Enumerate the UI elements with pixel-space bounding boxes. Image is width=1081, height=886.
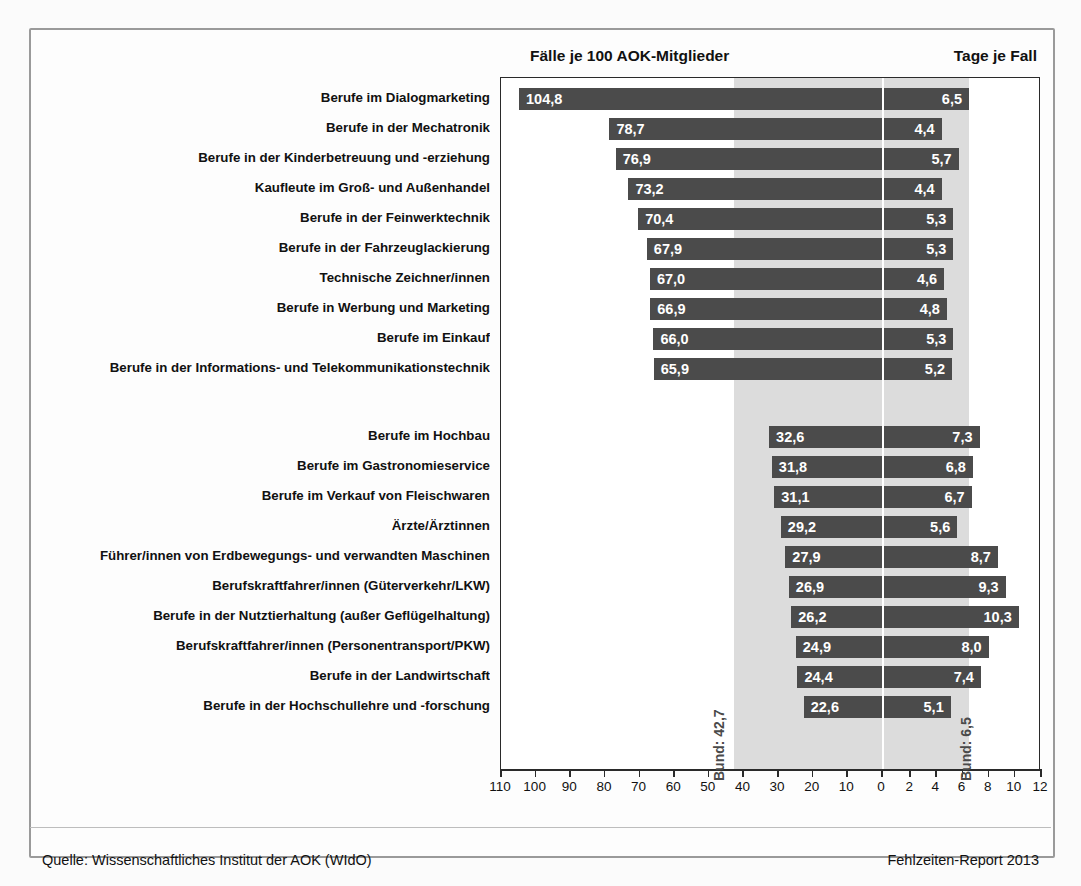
bar-cases: 78,7 [609,118,882,140]
category-label: Berufe im Gastronomieservice [20,451,490,481]
table-row: 78,74,4 [501,114,1039,144]
table-row: 70,45,3 [501,204,1039,234]
bar-cases: 104,8 [519,88,882,110]
axis-tick-label-left: 10 [839,779,854,794]
category-label: Kaufleute im Groß- und Außenhandel [20,173,490,203]
source-note: Quelle: Wissenschaftliches Institut der … [42,852,372,868]
bar-value-cases: 67,0 [657,268,685,290]
table-row: 24,98,0 [501,632,1039,662]
bar-value-days: 4,6 [917,268,937,290]
bar-days: 4,6 [884,268,944,290]
category-label: Berufe in der Informations- und Telekomm… [20,353,490,383]
axis-tick [639,769,641,777]
category-label: Berufskraftfahrer/innen (Güterverkehr/LK… [20,571,490,601]
bar-days: 10,3 [884,606,1019,628]
bar-cases: 24,9 [796,636,882,658]
bar-cases: 66,9 [650,298,882,320]
category-label: Berufe in der Landwirtschaft [20,661,490,691]
table-row: 67,04,6 [501,264,1039,294]
axis-tick [673,769,675,777]
bar-value-days: 6,8 [946,456,966,478]
axis-tick [777,769,779,777]
bar-cases: 70,4 [638,208,882,230]
axis-tick-label-left: 20 [804,779,819,794]
table-row: 26,210,3 [501,602,1039,632]
category-label: Berufe im Verkauf von Fleischwaren [20,481,490,511]
bar-value-cases: 26,9 [796,576,824,598]
bar-value-days: 8,0 [961,636,981,658]
bar-value-cases: 76,9 [623,148,651,170]
category-label: Berufe in der Fahrzeuglackierung [20,233,490,263]
bar-days: 4,8 [884,298,947,320]
bar-days: 4,4 [884,118,942,140]
bar-value-cases: 26,2 [798,606,826,628]
bar-days: 6,8 [884,456,973,478]
axis-tick-label-right: 8 [984,779,992,794]
table-row: 26,99,3 [501,572,1039,602]
category-label: Berufe im Hochbau [20,421,490,451]
bar-days: 5,2 [884,358,952,380]
bar-value-cases: 78,7 [616,118,644,140]
bar-days: 5,7 [884,148,959,170]
bar-value-days: 6,5 [942,88,962,110]
axis-tick [846,769,848,777]
table-row: 104,86,5 [501,84,1039,114]
category-label: Ärzte/Ärztinnen [20,511,490,541]
axis-tick-label-right: 6 [958,779,966,794]
axis-tick-label-right: 12 [1032,779,1047,794]
bar-value-days: 7,4 [954,666,974,688]
bar-days: 4,4 [884,178,942,200]
table-row: 67,95,3 [501,234,1039,264]
bar-days: 8,7 [884,546,998,568]
bar-cases: 67,0 [650,268,882,290]
bar-cases: 31,8 [772,456,882,478]
bar-cases: 67,9 [647,238,882,260]
bar-cases: 26,2 [791,606,882,628]
bar-value-cases: 27,9 [792,546,820,568]
category-label: Berufe in der Nutztierhaltung (außer Gef… [20,601,490,631]
bar-days: 6,5 [884,88,969,110]
axis-tick-label-left: 110 [489,779,511,794]
bar-value-days: 4,4 [914,118,934,140]
table-row: 65,95,2 [501,354,1039,384]
bar-value-days: 10,3 [984,606,1012,628]
reference-label-left: Bund: 42,7 [711,709,727,781]
bar-value-cases: 22,6 [811,696,839,718]
bar-value-cases: 31,8 [779,456,807,478]
bar-value-cases: 73,2 [635,178,663,200]
table-row: 66,94,8 [501,294,1039,324]
bar-value-days: 5,3 [926,328,946,350]
axis-tick [535,769,537,777]
bar-days: 5,3 [884,238,953,260]
axis-tick-label-left: 50 [700,779,715,794]
axis-tick-label-left: 30 [770,779,785,794]
bar-days: 8,0 [884,636,989,658]
table-row: 76,95,7 [501,144,1039,174]
axis-tick [742,769,744,777]
axis-tick [1014,769,1016,777]
report-note: Fehlzeiten-Report 2013 [887,852,1039,868]
bar-value-days: 5,6 [930,516,950,538]
table-row: 31,16,7 [501,482,1039,512]
zero-axis-line [882,78,884,769]
axis-tick [909,769,911,777]
table-row: 31,86,8 [501,452,1039,482]
bar-value-cases: 24,9 [803,636,831,658]
bar-value-days: 5,3 [926,238,946,260]
bar-value-cases: 24,4 [804,666,832,688]
category-label: Berufe in der Hochschullehre und -forsch… [20,691,490,721]
bar-value-cases: 32,6 [776,426,804,448]
axis-tick-label-left: 90 [562,779,577,794]
bar-value-cases: 29,2 [788,516,816,538]
bar-days: 6,7 [884,486,972,508]
bar-days: 5,6 [884,516,957,538]
bar-cases: 73,2 [628,178,882,200]
footer-divider [30,827,1051,828]
bar-cases: 66,0 [653,328,882,350]
axis-tick-label-right: 2 [905,779,913,794]
bar-value-days: 4,8 [920,298,940,320]
axis-tick [881,769,883,777]
bar-value-cases: 67,9 [654,238,682,260]
bar-cases: 22,6 [804,696,882,718]
bar-days: 7,4 [884,666,981,688]
